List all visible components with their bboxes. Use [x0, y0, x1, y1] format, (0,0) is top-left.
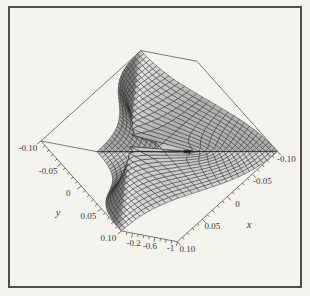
- y-tick-label: 0.10: [101, 233, 117, 243]
- z-tick-label: -0.2: [126, 238, 140, 248]
- z-tick-label: -0.6: [143, 241, 158, 251]
- x-axis-title: x: [246, 219, 252, 230]
- x-tick-label: 0.10: [180, 244, 196, 254]
- origin-singularity-blob: [183, 150, 192, 154]
- x-tick-label: 0: [235, 199, 240, 209]
- y-tick-label: -0.10: [19, 143, 38, 153]
- surface-plot-figure: -0.10-0.0500.050.100.100.050-0.05-0.10-0…: [0, 0, 310, 296]
- y-tick-label: 0.05: [80, 211, 96, 221]
- y-axis-title: y: [55, 207, 61, 218]
- x-tick-label: -0.10: [277, 154, 296, 164]
- y-tick-label: 0: [66, 188, 71, 198]
- y-tick-label: -0.05: [39, 166, 58, 176]
- x-tick-label: 0.05: [205, 221, 221, 231]
- z-tick-label: -1: [167, 243, 175, 253]
- x-tick-label: -0.05: [253, 176, 272, 186]
